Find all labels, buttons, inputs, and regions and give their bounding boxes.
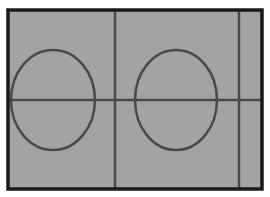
field-diagram [0,0,270,197]
